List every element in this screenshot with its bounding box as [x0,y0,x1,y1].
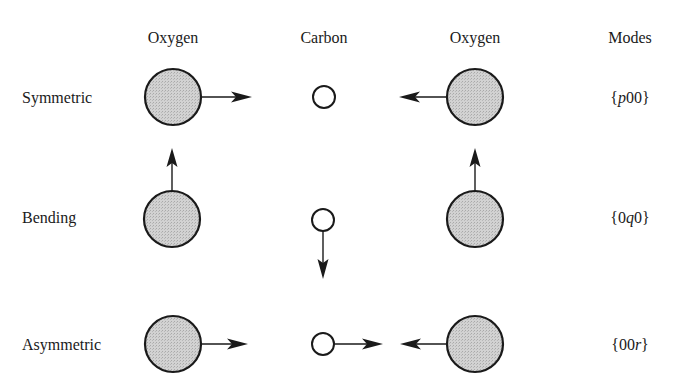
arrow-right-icon [201,339,248,350]
arrow-right-icon [201,92,252,103]
arrow-right-icon [334,339,383,350]
symmetric-row [145,69,503,125]
oxygen-right-atom [447,69,503,125]
carbon-atom [313,86,335,108]
arrow-left-icon [400,339,447,350]
carbon-atom [312,333,334,355]
arrow-up-icon [470,148,481,191]
oxygen-left-atom [144,191,200,247]
bending-row [144,148,503,279]
oxygen-right-atom [447,316,503,372]
arrow-up-icon [167,148,178,191]
oxygen-right-atom [447,191,503,247]
carbon-atom [312,209,334,231]
oxygen-left-atom [145,316,201,372]
oxygen-left-atom [145,69,201,125]
arrow-left-icon [399,92,447,103]
asymmetric-row [145,316,503,372]
co2-vibration-diagram [0,0,673,391]
arrow-down-icon [318,231,329,279]
